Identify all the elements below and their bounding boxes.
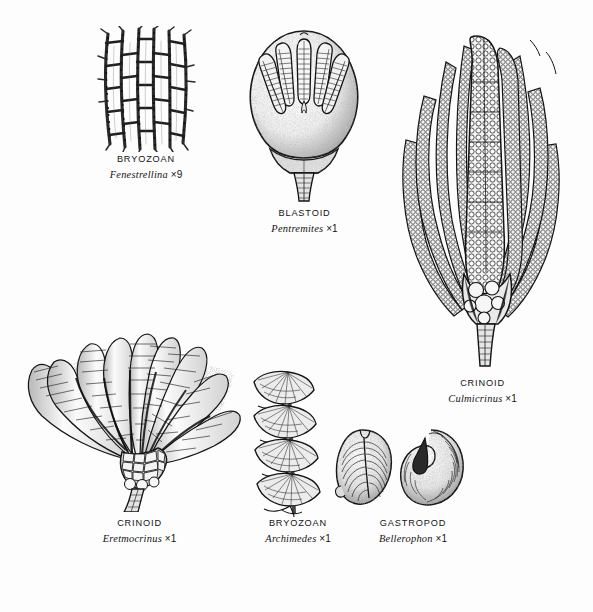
bellerophon-genus: Bellerophon ×1 (348, 532, 478, 546)
fenestrellina-genus: Fenestrellina ×9 (80, 168, 212, 182)
eretmocrinus-genus: Eretmocrinus ×1 (72, 532, 207, 546)
pentremites-genus: Pentremites ×1 (242, 222, 367, 236)
eretmocrinus-caption: CRINOID Eretmocrinus ×1 (72, 517, 207, 545)
pentremites-caption: BLASTOID Pentremites ×1 (242, 207, 367, 235)
eretmocrinus-common-name: CRINOID (72, 517, 207, 529)
bellerophon-illustration (333, 424, 468, 516)
archimedes-common-name: BRYOZOAN (234, 517, 362, 529)
culmicrinus-magnification: ×1 (505, 393, 516, 404)
bellerophon-common-name: GASTROPOD (348, 517, 478, 529)
fenestrellina-caption: BRYOZOAN Fenestrellina ×9 (80, 153, 212, 181)
culmicrinus-common-name: CRINOID (420, 377, 545, 389)
fossil-illustration-plate: BRYOZOAN Fenestrellina ×9 (0, 0, 593, 612)
pentremites-magnification: ×1 (326, 223, 337, 234)
fenestrellina-illustration (90, 26, 202, 152)
culmicrinus-caption: CRINOID Culmicrinus ×1 (420, 377, 545, 405)
archimedes-genus: Archimedes ×1 (234, 532, 362, 546)
eretmocrinus-illustration (18, 312, 253, 512)
fenestrellina-common-name: BRYOZOAN (80, 153, 212, 165)
archimedes-magnification: ×1 (319, 533, 330, 544)
bellerophon-magnification: ×1 (436, 533, 447, 544)
archimedes-illustration (252, 368, 344, 518)
eretmocrinus-magnification: ×1 (165, 533, 176, 544)
pentremites-illustration (234, 25, 374, 205)
pentremites-common-name: BLASTOID (242, 207, 367, 219)
bellerophon-caption: GASTROPOD Bellerophon ×1 (348, 517, 478, 545)
culmicrinus-genus: Culmicrinus ×1 (420, 392, 545, 406)
culmicrinus-illustration (398, 22, 568, 367)
archimedes-caption: BRYOZOAN Archimedes ×1 (234, 517, 362, 545)
fenestrellina-magnification: ×9 (171, 169, 182, 180)
